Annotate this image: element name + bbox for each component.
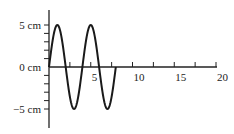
y-tick-label: −5 cm bbox=[13, 103, 41, 115]
y-tick-label: 5 cm bbox=[19, 19, 41, 31]
wave-chart: 51015205 cm0 cm−5 cm bbox=[0, 0, 234, 134]
x-tick-label: 10 bbox=[134, 71, 146, 83]
y-tick-label: 0 cm bbox=[19, 61, 41, 73]
axes bbox=[49, 10, 217, 128]
x-tick-label: 15 bbox=[175, 71, 187, 83]
x-tick-label: 20 bbox=[217, 71, 229, 83]
x-tick-label: 5 bbox=[92, 71, 98, 83]
